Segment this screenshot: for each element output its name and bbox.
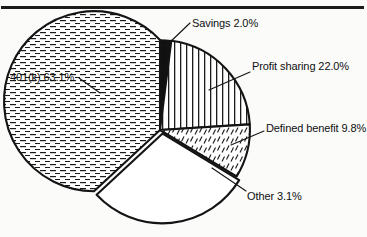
pie-chart-graphic (0, 0, 367, 237)
pie-label-401k: 401(k) 63.1% (10, 71, 74, 83)
pie-label-savings: Savings 2.0% (192, 17, 258, 29)
pie-label-profit-sharing: Profit sharing 22.0% (252, 60, 349, 72)
pie-label-defined-benefit: Defined benefit 9.8% (266, 122, 366, 134)
pie-slices (4, 11, 250, 223)
pie-chart-figure: Savings 2.0% Profit sharing 22.0% Define… (0, 0, 367, 237)
pie-label-other: Other 3.1% (247, 190, 302, 202)
pie-slice-profit-sharing[interactable] (160, 41, 250, 130)
